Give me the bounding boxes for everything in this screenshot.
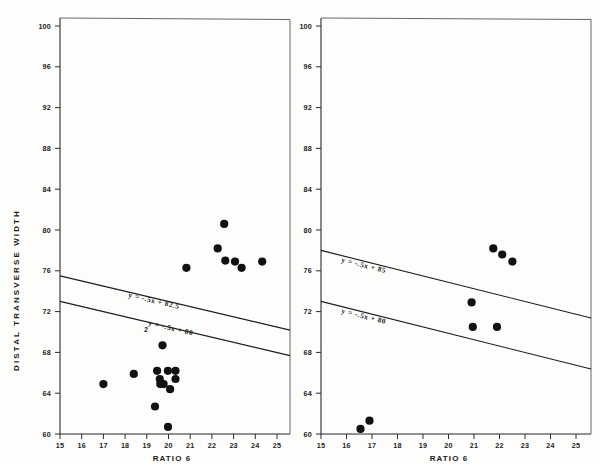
x-tick-label: 16 [77, 441, 85, 450]
data-point [489, 244, 497, 252]
y-axis-ticks-right [316, 26, 321, 434]
data-point [356, 425, 364, 433]
y-tick-label: 88 [43, 144, 51, 153]
y-tick-label: 100 [299, 22, 312, 31]
y-axis-ticks-left [55, 26, 60, 434]
data-point [171, 367, 179, 375]
y-tick-label: 80 [43, 226, 51, 235]
data-point [160, 380, 168, 388]
y-tick-label: 68 [304, 348, 312, 357]
data-point [493, 323, 501, 331]
data-point [151, 402, 159, 410]
y-tick-label: 96 [304, 62, 312, 71]
x-tick-label: 23 [229, 441, 237, 450]
y-tick-label: 64 [43, 389, 51, 398]
x-tick-label: 20 [164, 441, 172, 450]
data-point [258, 258, 266, 266]
x-axis-ticks-right [321, 434, 576, 439]
x-tick-label: 18 [393, 441, 401, 450]
data-point [164, 423, 172, 431]
x-tick-label: 19 [143, 441, 151, 450]
regression-equation-label-1: y = -.5x + 82.5 [128, 290, 181, 311]
x-axis-title-right: RATIO 6 [430, 454, 469, 463]
y-tick-label: 60 [43, 430, 51, 439]
regression-equation-label-1: y = -.5x + 85 [341, 255, 388, 275]
y-tick-label: 84 [43, 185, 51, 194]
x-tick-label: 17 [99, 441, 107, 450]
x-axis-tick-labels-left: 15 16 17 18 19 20 21 22 23 24 25 [56, 441, 281, 450]
data-point [231, 258, 239, 266]
panel-right-svg: 60 64 68 72 76 80 84 88 92 96 100 [299, 0, 599, 464]
data-point [214, 244, 222, 252]
x-tick-label: 16 [342, 441, 350, 450]
data-point [238, 264, 246, 272]
y-tick-label: 72 [304, 307, 312, 316]
y-tick-label: 84 [304, 185, 312, 194]
y-axis-title: DISTAL TRANSVERSE WIDTH [12, 209, 21, 371]
scatter-panel-right: 60 64 68 72 76 80 84 88 92 96 100 [299, 0, 599, 464]
y-tick-label: 68 [43, 348, 51, 357]
x-tick-label: 15 [317, 441, 325, 450]
x-axis-title-left: RATIO 6 [153, 454, 192, 463]
y-tick-label: 76 [43, 266, 51, 275]
data-point [469, 323, 477, 331]
x-tick-label: 25 [572, 441, 580, 450]
panel-left-svg: 60 64 68 72 76 80 84 88 92 96 100 [0, 0, 300, 464]
data-point [498, 250, 506, 258]
y-tick-label: 88 [304, 144, 312, 153]
data-point [99, 380, 107, 388]
x-tick-label: 19 [419, 441, 427, 450]
x-axis-ticks-left [60, 434, 277, 439]
point-count-label: 2 [144, 326, 148, 333]
scatter-panel-left: 60 64 68 72 76 80 84 88 92 96 100 [0, 0, 300, 464]
regression-equation-label-2: y = -.5x + 80 [148, 318, 195, 337]
x-tick-label: 21 [186, 441, 194, 450]
data-point [166, 385, 174, 393]
x-tick-label: 25 [273, 441, 281, 450]
data-point [164, 367, 172, 375]
data-point [171, 375, 179, 383]
data-point [365, 417, 373, 425]
data-point [508, 258, 516, 266]
data-point [158, 341, 166, 349]
data-point [153, 367, 161, 375]
y-axis-tick-labels-left: 60 64 68 72 76 80 84 88 92 96 100 [38, 22, 51, 439]
x-tick-label: 21 [470, 441, 478, 450]
x-tick-label: 22 [495, 441, 503, 450]
data-point [468, 298, 476, 306]
x-tick-label: 17 [368, 441, 376, 450]
data-point [220, 220, 228, 228]
y-tick-label: 92 [304, 103, 312, 112]
regression-equation-label-2: y = -.5x + 80 [341, 306, 388, 326]
y-tick-label: 60 [304, 430, 312, 439]
y-tick-label: 76 [304, 266, 312, 275]
y-tick-label: 100 [38, 22, 51, 31]
x-tick-label: 24 [251, 441, 259, 450]
data-point [221, 257, 229, 265]
y-axis-tick-labels-right: 60 64 68 72 76 80 84 88 92 96 100 [299, 22, 312, 439]
plot-frame-right [321, 18, 591, 434]
data-point [182, 264, 190, 272]
x-tick-label: 20 [444, 441, 452, 450]
y-tick-label: 92 [43, 103, 51, 112]
x-tick-label: 24 [546, 441, 554, 450]
regression-lines-left [60, 276, 290, 356]
y-tick-label: 72 [43, 307, 51, 316]
data-point [130, 370, 138, 378]
y-tick-label: 80 [304, 226, 312, 235]
y-tick-label: 96 [43, 62, 51, 71]
y-tick-label: 64 [304, 389, 312, 398]
x-tick-label: 15 [56, 441, 64, 450]
x-axis-tick-labels-right: 15 16 17 18 19 20 21 22 23 24 25 [317, 441, 580, 450]
figure-container: 60 64 68 72 76 80 84 88 92 96 100 [0, 0, 599, 464]
x-tick-label: 22 [208, 441, 216, 450]
x-tick-label: 18 [121, 441, 129, 450]
x-tick-label: 23 [521, 441, 529, 450]
